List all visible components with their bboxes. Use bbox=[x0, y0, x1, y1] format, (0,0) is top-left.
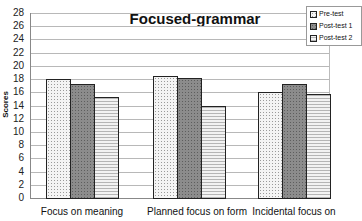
bar-pre-test bbox=[153, 76, 178, 199]
bar-post-test-2 bbox=[94, 97, 119, 199]
y-tick-label: 2 bbox=[8, 179, 24, 190]
y-tick-label: 26 bbox=[8, 20, 24, 31]
legend-item-post-test-1: Post-test 1 bbox=[310, 22, 352, 30]
gridline bbox=[30, 13, 330, 14]
y-tick-label: 20 bbox=[8, 60, 24, 71]
y-tick-label: 22 bbox=[8, 47, 24, 58]
bar-pre-test bbox=[258, 92, 283, 199]
legend-swatch-icon bbox=[310, 23, 317, 30]
y-tick-label: 8 bbox=[8, 139, 24, 150]
x-category-label: Planned focus on form bbox=[147, 206, 231, 217]
x-category-label: Incidental focus on bbox=[252, 206, 336, 217]
gridline bbox=[30, 39, 330, 40]
y-tick-label: 6 bbox=[8, 152, 24, 163]
y-tick-label: 4 bbox=[8, 166, 24, 177]
bar-post-test-1 bbox=[70, 84, 95, 199]
y-tick-label: 24 bbox=[8, 33, 24, 44]
y-tick-label: 0 bbox=[8, 192, 24, 203]
x-category-label: Focus on meaning bbox=[40, 206, 124, 217]
gridline bbox=[30, 66, 330, 67]
legend-swatch-icon bbox=[310, 35, 317, 42]
legend-swatch-icon bbox=[310, 11, 317, 18]
legend-item-pre-test: Pre-test bbox=[310, 10, 344, 18]
bar-pre-test bbox=[46, 79, 71, 199]
bar-post-test-1 bbox=[282, 84, 307, 199]
y-axis-line bbox=[30, 13, 31, 199]
y-tick-label: 18 bbox=[8, 73, 24, 84]
legend: Pre-test Post-test 1 Post-test 2 bbox=[306, 6, 362, 46]
bar-post-test-1 bbox=[177, 78, 202, 199]
legend-item-post-test-2: Post-test 2 bbox=[310, 34, 352, 42]
gridline bbox=[30, 53, 330, 54]
y-tick-label: 28 bbox=[8, 7, 24, 18]
y-tick-label: 10 bbox=[8, 126, 24, 137]
y-tick-label: 16 bbox=[8, 86, 24, 97]
bar-post-test-2 bbox=[201, 106, 226, 200]
bar-post-test-2 bbox=[306, 94, 331, 199]
y-tick-label: 14 bbox=[8, 100, 24, 111]
gridline bbox=[30, 26, 330, 27]
y-tick-label: 12 bbox=[8, 113, 24, 124]
